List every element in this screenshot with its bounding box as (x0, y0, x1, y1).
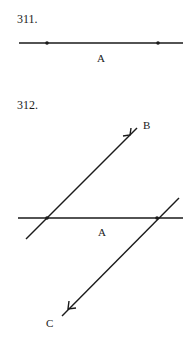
point-left-311 (45, 41, 49, 45)
line-label-a-312: A (98, 227, 106, 238)
line-label-a-311: A (97, 53, 105, 64)
ray-c (62, 198, 179, 316)
point-right-311 (156, 41, 160, 45)
ray-b (26, 128, 137, 239)
problem-312-number: 312. (17, 99, 38, 111)
ray-label-b: B (143, 120, 150, 131)
arrowhead-b-icon (123, 128, 131, 136)
figure-312 (18, 128, 183, 316)
ray-label-c: C (46, 318, 53, 329)
figure-311 (19, 41, 183, 45)
